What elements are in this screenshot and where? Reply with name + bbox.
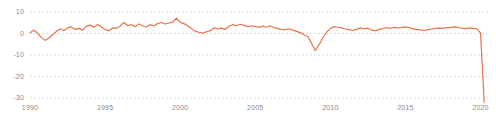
y-tick-label: -20 (0, 73, 24, 80)
x-tick-label: 1995 (90, 104, 120, 111)
y-tick-label: -30 (0, 94, 24, 101)
y-tick-label: -10 (0, 51, 24, 58)
series-line (30, 18, 484, 102)
x-tick-label: 2005 (240, 104, 270, 111)
x-tick-label: 2015 (390, 104, 420, 111)
y-tick-label: 10 (0, 8, 24, 15)
chart-plot-area (0, 0, 496, 120)
x-tick-label: 2010 (315, 104, 345, 111)
y-tick-label: 0 (0, 30, 24, 37)
x-tick-label: 2000 (165, 104, 195, 111)
data-series-group (30, 18, 484, 102)
line-chart: 100-10-20-30 199019952000200520102015202… (0, 0, 496, 120)
x-tick-label: 1990 (15, 104, 45, 111)
x-tick-label: 2020 (465, 104, 495, 111)
